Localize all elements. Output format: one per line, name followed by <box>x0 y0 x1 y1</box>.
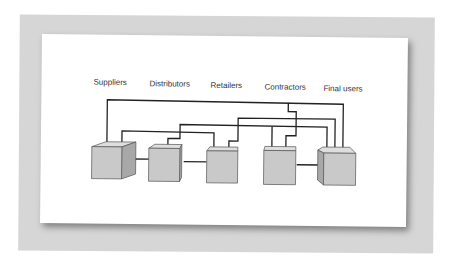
edge-contractors-suppliers <box>286 103 296 148</box>
diagram-stage: Suppliers Distributors Retailers Contrac… <box>0 0 453 269</box>
label-final-users: Final users <box>323 84 362 93</box>
label-contractors: Contractors <box>264 82 305 91</box>
label-suppliers: Suppliers <box>93 78 126 87</box>
cube-distributors <box>149 144 182 181</box>
cube-retailers <box>206 147 237 183</box>
cube-contractors <box>263 146 295 184</box>
label-retailers: Retailers <box>210 81 242 90</box>
label-distributors: Distributors <box>149 79 190 88</box>
supply-chain-diagram: Suppliers Distributors Retailers Contrac… <box>0 0 453 269</box>
edge-suppliers-final-users <box>107 100 343 149</box>
cube-suppliers <box>92 142 136 179</box>
cube-final-users <box>317 147 355 185</box>
edge-distributors-final-users <box>168 124 327 149</box>
edge-retailers-final-users <box>229 118 335 149</box>
